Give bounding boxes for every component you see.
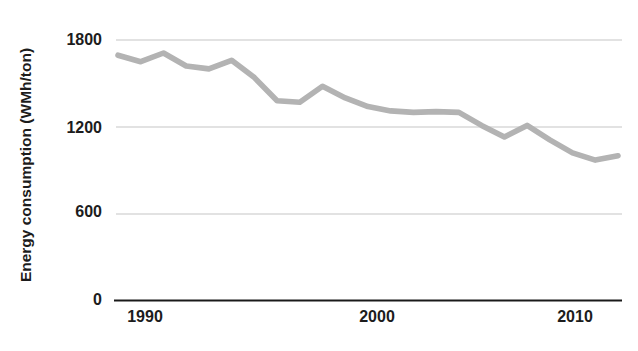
plot-area (0, 0, 638, 351)
line-chart: Energy consumption (WMh/ton) 1800 1200 6… (0, 0, 638, 351)
x-tick-label-1990: 1990 (110, 308, 180, 326)
x-tick-label-2010: 2010 (540, 308, 610, 326)
x-tick-label-2000: 2000 (342, 308, 412, 326)
data-line-energy-consumption (118, 53, 618, 160)
